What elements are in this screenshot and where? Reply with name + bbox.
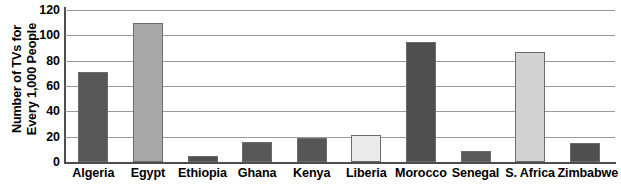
- bar-algeria[interactable]: [78, 72, 108, 162]
- x-label-ethiopia: Ethiopia: [175, 166, 230, 181]
- x-axis-category-labels: Algeria Egypt Ethiopia Ghana Kenya Liber…: [64, 166, 614, 186]
- bar-ethiopia[interactable]: [188, 156, 218, 162]
- x-label-egypt: Egypt: [121, 166, 176, 181]
- y-tick-100: 100: [26, 29, 60, 41]
- bar-liberia[interactable]: [351, 135, 381, 162]
- bar-zimbabwe[interactable]: [570, 143, 600, 162]
- x-label-kenya: Kenya: [284, 166, 339, 181]
- x-label-senegal: Senegal: [448, 166, 503, 181]
- bar-egypt[interactable]: [133, 23, 163, 162]
- bar-chart: Number of TVs for Every 1,000 People 120…: [0, 0, 621, 188]
- plot-area: [64, 10, 612, 162]
- x-label-liberia: Liberia: [339, 166, 394, 181]
- x-axis-line: [64, 162, 616, 164]
- x-label-s-africa: S. Africa: [503, 166, 558, 181]
- y-axis-tick-labels: 120 100 80 60 40 20 0: [24, 10, 60, 162]
- bars-layer: [66, 10, 612, 162]
- bar-s-africa[interactable]: [515, 52, 545, 162]
- y-tick-40: 40: [26, 105, 60, 117]
- bar-ghana[interactable]: [242, 142, 272, 162]
- x-label-algeria: Algeria: [66, 166, 121, 181]
- x-label-ghana: Ghana: [230, 166, 285, 181]
- bar-kenya[interactable]: [297, 138, 327, 162]
- y-tick-20: 20: [26, 131, 60, 143]
- x-label-zimbabwe: Zimbabwe: [557, 166, 612, 181]
- y-tick-80: 80: [26, 55, 60, 67]
- bar-morocco[interactable]: [406, 42, 436, 162]
- y-tick-0: 0: [26, 156, 60, 168]
- y-axis-title-line-1: Number of TVs for: [10, 25, 26, 133]
- bar-senegal[interactable]: [461, 151, 491, 162]
- y-tick-60: 60: [26, 80, 60, 92]
- y-tick-120: 120: [26, 4, 60, 16]
- x-label-morocco: Morocco: [394, 166, 449, 181]
